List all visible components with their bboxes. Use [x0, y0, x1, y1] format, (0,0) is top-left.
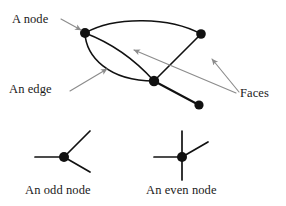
node-center: [149, 76, 159, 86]
label-an-even-node: An even node: [146, 184, 217, 197]
faces-arrow-right: [212, 59, 239, 92]
edge-top-arc: [85, 21, 201, 34]
edge-center-to-top-right: [154, 34, 201, 81]
faces-arrow-left: [134, 50, 236, 93]
edge-center-to-bottom-right: [154, 81, 199, 105]
label-an-edge: An edge: [9, 83, 52, 96]
node-top-right: [196, 29, 206, 39]
edge-lower-bulge: [85, 33, 154, 81]
odd-node-diagram: [35, 131, 90, 172]
figure-canvas: A node An edge Faces An odd node An even…: [0, 0, 286, 206]
even-node-dot: [177, 152, 187, 162]
node-top-left: [80, 28, 90, 38]
node-bottom-right: [194, 100, 203, 109]
graph-edges: [85, 21, 201, 105]
odd-node-dot: [59, 152, 69, 162]
even-node-diagram: [154, 131, 208, 180]
an-edge-arrow: [70, 69, 107, 91]
odd-spoke-up-right: [64, 131, 90, 157]
label-an-odd-node: An odd node: [25, 184, 91, 197]
label-faces: Faces: [240, 87, 269, 100]
label-a-node: A node: [12, 13, 48, 26]
graph-diagram: [0, 0, 286, 206]
a-node-arrow: [61, 19, 81, 30]
edge-inner-curve: [85, 33, 154, 81]
